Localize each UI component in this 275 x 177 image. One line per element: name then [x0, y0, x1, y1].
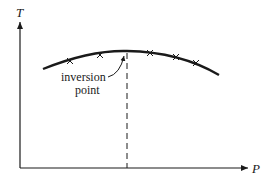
- annotation-label-line1: inversion: [61, 70, 106, 84]
- inversion-diagram: T P inversion point: [0, 0, 275, 177]
- annotation-arrow: [108, 56, 124, 77]
- y-axis-label: T: [16, 5, 24, 20]
- annotation-label-line2: point: [75, 83, 100, 97]
- x-axis-label: P: [251, 161, 260, 176]
